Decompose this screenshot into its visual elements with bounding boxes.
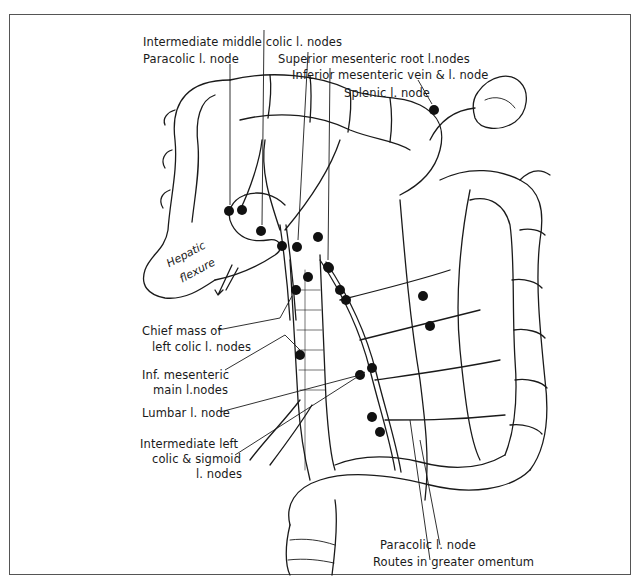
label-chief-mass-1: Chief mass of [142, 324, 222, 338]
inferior-mesenteric-vessels [320, 260, 395, 470]
spleen [473, 76, 526, 128]
sigmoid-colon [289, 470, 530, 525]
descending-colon [440, 171, 547, 470]
label-routes-greater-omentum: Routes in greater omentum [373, 555, 534, 569]
label-intermediate-middle-colic-nodes: Intermediate middle colic l. nodes [143, 35, 342, 49]
label-paracolic-node-top: Paracolic l. node [143, 52, 239, 66]
label-intermediate-left-3: l. nodes [196, 467, 242, 481]
label-superior-mesenteric-root-nodes: Superior mesenteric root l.nodes [278, 52, 470, 66]
label-splenic-node: Splenic l. node [344, 86, 430, 100]
label-inferior-mesenteric-vein-node: Inferior mesenteric vein & l. node [292, 68, 489, 82]
label-intermediate-left-1: Intermediate left [140, 437, 238, 451]
label-intermediate-left-2: colic & sigmoid [152, 452, 241, 466]
rectum [286, 525, 290, 575]
label-chief-mass-2: left colic l. nodes [152, 340, 251, 354]
label-inf-mesenteric-2: main l.nodes [153, 383, 228, 397]
label-lumbar-node: Lumbar l. node [142, 406, 230, 420]
label-inf-mesenteric-1: Inf. mesenteric [142, 368, 229, 382]
label-paracolic-node-bottom: Paracolic l. node [380, 538, 476, 552]
colon-lymph-node-illustration [0, 0, 641, 586]
leader-lines [218, 30, 440, 560]
